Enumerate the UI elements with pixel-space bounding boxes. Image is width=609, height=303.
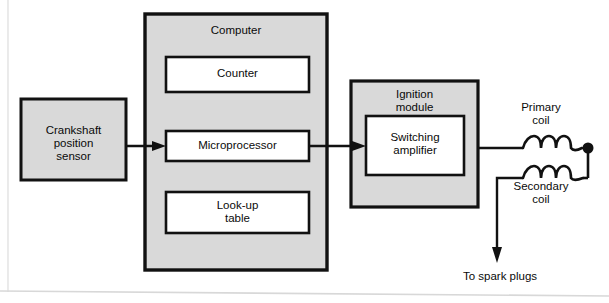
label-to-spark-plugs: To spark plugs [420, 270, 580, 283]
scan-edge-bottom [0, 291, 609, 296]
label-crankshaft-position-sensor: Crankshaft position sensor [21, 124, 126, 163]
coil-secondary [523, 166, 583, 180]
label-ignition-module: Ignition module [351, 88, 478, 114]
label-primary-coil: Primary coil [491, 101, 591, 127]
label-switching-amplifier: Switching amplifier [366, 131, 464, 157]
diagram-canvas: Crankshaft position sensor Computer Coun… [0, 0, 609, 303]
label-computer: Computer [145, 24, 327, 37]
coil-primary [523, 136, 582, 150]
label-microprocessor: Microprocessor [166, 139, 309, 152]
label-secondary-coil: Secondary coil [486, 180, 596, 206]
label-counter: Counter [166, 67, 309, 80]
label-look-up-table: Look-up table [166, 199, 309, 225]
